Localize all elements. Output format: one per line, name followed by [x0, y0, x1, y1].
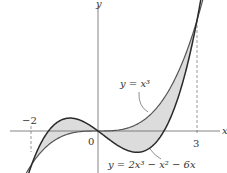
- graph-figure: y x 0 −2 3 y = x³ y = 2x³ − x² − 6x: [0, 0, 227, 173]
- shaded-region: [32, 20, 197, 164]
- curve-label-cubic: y = x³: [119, 78, 150, 89]
- y-axis-label: y: [95, 0, 102, 9]
- x-axis-label: x: [222, 125, 227, 136]
- tick-label-minus-2: −2: [22, 115, 37, 126]
- origin-label: 0: [88, 136, 94, 147]
- curve-label-polynomial: y = 2x³ − x² − 6x: [107, 159, 196, 170]
- tick-label-3: 3: [193, 138, 199, 149]
- leader-line-polynomial: [150, 149, 161, 159]
- leader-line-cubic: [139, 92, 148, 112]
